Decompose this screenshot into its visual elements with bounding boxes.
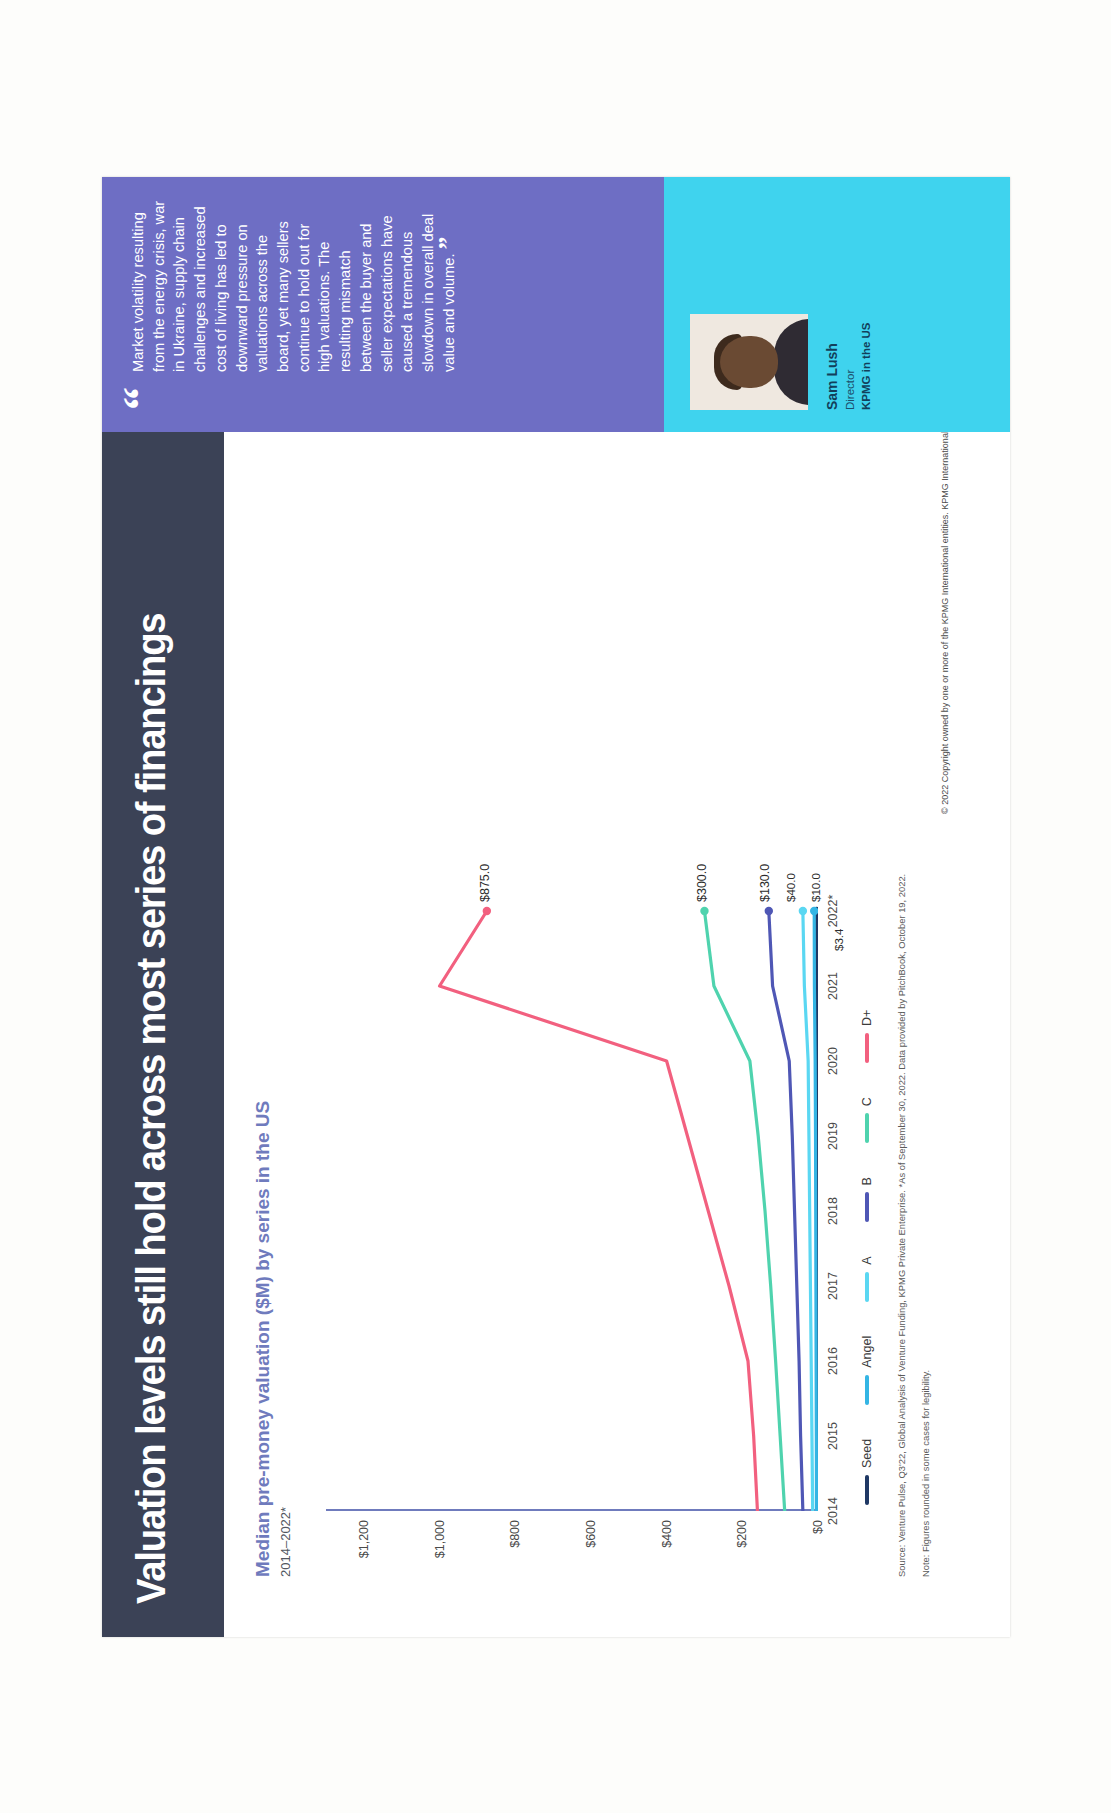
quote-body: Market volatility resulting from the ene… bbox=[130, 200, 457, 371]
x-axis-tick: 2018 bbox=[826, 1197, 840, 1225]
legend-swatch-angel bbox=[865, 1374, 868, 1404]
plot-area: $0$200$400$600$800$1,000$1,2002014201520… bbox=[326, 883, 818, 1511]
series-value-label-c: $300.0 bbox=[695, 863, 709, 901]
legend-item-angel[interactable]: Angel bbox=[860, 1335, 874, 1404]
x-axis-tick: 2017 bbox=[826, 1272, 840, 1300]
person-name: Sam Lush bbox=[824, 343, 840, 410]
y-axis-tick: $1,200 bbox=[356, 1520, 370, 1558]
legend-label: A bbox=[860, 1256, 874, 1264]
series-line-b bbox=[768, 911, 802, 1511]
chart-svg bbox=[326, 883, 818, 1511]
y-axis-tick: $0 bbox=[811, 1520, 825, 1534]
series-value-label-seed: $3.4 bbox=[832, 928, 844, 950]
legend-item-dplus[interactable]: D+ bbox=[860, 1009, 874, 1062]
y-axis-tick: $400 bbox=[659, 1520, 673, 1548]
y-axis-tick: $600 bbox=[583, 1520, 597, 1548]
chart-legend: SeedAngelABCD+ bbox=[860, 1009, 874, 1504]
legend-item-c[interactable]: C bbox=[860, 1097, 874, 1143]
legend-item-seed[interactable]: Seed bbox=[860, 1438, 874, 1504]
legend-label: Seed bbox=[860, 1438, 874, 1467]
quote-open-mark: “ bbox=[126, 387, 154, 410]
series-value-label-a: $40.0 bbox=[784, 873, 796, 902]
legend-label: D+ bbox=[860, 1009, 874, 1025]
x-axis-tick: 2021 bbox=[826, 972, 840, 1000]
legend-label: B bbox=[860, 1177, 874, 1185]
legend-label: C bbox=[860, 1097, 874, 1106]
legend-swatch-c bbox=[865, 1113, 868, 1143]
quote-panel: “ Market volatility resulting from the e… bbox=[102, 177, 1010, 432]
quote-text: Market volatility resulting from the ene… bbox=[128, 194, 460, 372]
legend-swatch-b bbox=[865, 1192, 868, 1222]
series-value-label-angel: $10.0 bbox=[810, 873, 822, 902]
legend-item-a[interactable]: A bbox=[860, 1256, 874, 1301]
series-line-c bbox=[704, 911, 784, 1511]
x-axis-tick: 2016 bbox=[826, 1347, 840, 1375]
x-axis-tick: 2020 bbox=[826, 1047, 840, 1075]
series-end-marker-b bbox=[764, 906, 772, 914]
avatar bbox=[690, 314, 808, 410]
y-axis-tick: $200 bbox=[735, 1520, 749, 1548]
page-title: Valuation levels still hold across most … bbox=[128, 613, 175, 1603]
series-line-dplus bbox=[439, 911, 757, 1511]
quote-close-mark: ” bbox=[440, 236, 453, 249]
y-axis-tick: $1,000 bbox=[432, 1520, 446, 1558]
series-value-label-dplus: $875.0 bbox=[477, 863, 491, 901]
x-axis-tick: 2022* bbox=[826, 894, 840, 927]
legend-label: Angel bbox=[860, 1335, 874, 1367]
series-line-a bbox=[802, 911, 812, 1511]
avatar-body bbox=[774, 319, 808, 405]
person-band: Sam Lush Director KPMG in the US bbox=[664, 177, 1010, 432]
valuation-line-chart: $0$200$400$600$800$1,000$1,2002014201520… bbox=[316, 877, 876, 1577]
series-end-marker-a bbox=[798, 906, 806, 914]
x-axis-tick: 2014 bbox=[826, 1497, 840, 1525]
legend-swatch-dplus bbox=[865, 1033, 868, 1063]
legend-item-b[interactable]: B bbox=[860, 1177, 874, 1222]
person-role: Director bbox=[844, 369, 856, 409]
chart-subtitle: Median pre-money valuation ($M) by serie… bbox=[252, 1100, 274, 1576]
series-value-label-b: $130.0 bbox=[757, 863, 771, 901]
source-text: Source: Venture Pulse, Q3'22, Global Ana… bbox=[896, 873, 907, 1576]
note-text: Note: Figures rounded in some cases for … bbox=[920, 1369, 931, 1576]
legend-swatch-a bbox=[865, 1271, 868, 1301]
x-axis-tick: 2019 bbox=[826, 1122, 840, 1150]
series-line-angel bbox=[814, 911, 816, 1511]
avatar-head bbox=[720, 336, 778, 388]
slide: Valuation levels still hold across most … bbox=[102, 177, 1010, 1637]
y-axis-tick: $800 bbox=[508, 1520, 522, 1548]
series-end-marker-c bbox=[700, 906, 708, 914]
legend-swatch-seed bbox=[865, 1475, 868, 1505]
series-end-marker-angel bbox=[810, 906, 818, 914]
person-org: KPMG in the US bbox=[860, 322, 872, 410]
chart-date-range: 2014–2022* bbox=[278, 1506, 293, 1576]
series-end-marker-dplus bbox=[482, 906, 490, 914]
x-axis-tick: 2015 bbox=[826, 1422, 840, 1450]
